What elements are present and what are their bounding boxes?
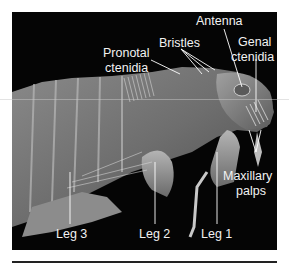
label-leg3: Leg 3 xyxy=(56,228,87,241)
label-antenna: Antenna xyxy=(196,15,243,28)
label-maxillary-1: Maxillary xyxy=(223,170,272,183)
flea-micrograph: Antenna Bristles Genal ctenidia Pronotal… xyxy=(12,12,277,250)
label-genal-2: ctenidia xyxy=(231,51,274,64)
label-bristles: Bristles xyxy=(159,37,200,50)
label-pronotal-1: Pronotal xyxy=(103,47,150,60)
label-leg2: Leg 2 xyxy=(139,228,170,241)
label-maxillary-2: palps xyxy=(236,185,266,198)
label-leg1: Leg 1 xyxy=(201,228,232,241)
label-pronotal-2: ctenidia xyxy=(105,62,148,75)
overlay-guide-line xyxy=(0,99,289,100)
label-genal-1: Genal xyxy=(238,36,271,49)
